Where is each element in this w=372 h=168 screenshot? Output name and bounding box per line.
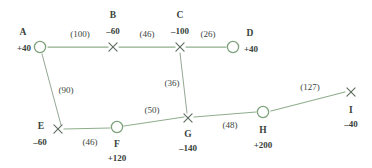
edge-g-h (194, 112, 256, 117)
node-h[interactable] (257, 106, 268, 117)
edge-a-e (42, 54, 61, 125)
node-circle-icon (111, 121, 122, 132)
node-f[interactable] (111, 121, 122, 132)
network-flow-diagram: (100)(46)(26)(90)(36)(46)(50)(48)(127)A+… (0, 0, 372, 168)
node-g[interactable] (184, 114, 192, 122)
edges-layer (42, 47, 345, 129)
edge-e-f (64, 128, 110, 129)
network-graph-canvas (0, 0, 372, 168)
node-circle-icon (257, 106, 268, 117)
node-a[interactable] (34, 41, 45, 52)
node-e[interactable] (54, 125, 62, 133)
node-circle-icon (227, 41, 238, 52)
node-circle-icon (34, 41, 45, 52)
edge-f-g (124, 117, 184, 126)
nodes-layer (34, 41, 355, 133)
node-d[interactable] (227, 41, 238, 52)
edge-c-g (180, 53, 187, 113)
edge-h-i (271, 92, 345, 111)
node-b[interactable] (109, 43, 117, 51)
node-c[interactable] (176, 43, 184, 51)
node-i[interactable] (347, 88, 355, 96)
